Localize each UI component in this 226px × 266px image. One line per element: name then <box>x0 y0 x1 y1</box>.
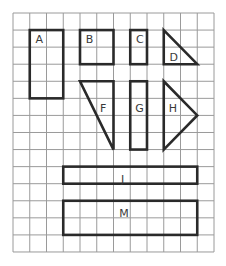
shape-b-label: B <box>86 33 94 46</box>
shape-a-label: A <box>36 33 44 46</box>
shape-j-label: J <box>120 173 124 186</box>
shape-m-label: M <box>119 207 129 220</box>
shape-c-label: C <box>136 33 144 46</box>
shape-f-label: F <box>100 102 106 115</box>
grid-diagram: ABCDFGHJM <box>0 0 226 266</box>
labels-layer: ABCDFGHJM <box>36 33 178 219</box>
shape-g-label: G <box>135 102 144 115</box>
shape-d-label: D <box>170 51 178 64</box>
shape-h-label: H <box>169 102 177 115</box>
